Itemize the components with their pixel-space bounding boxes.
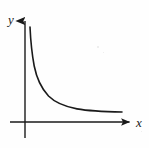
y-axis-label: y [6, 12, 14, 27]
x-axis-label: x [135, 115, 142, 130]
figure-canvas: x y [0, 0, 149, 148]
hyperbola-curve [30, 27, 122, 112]
hyperbola-diagram: x y [0, 0, 149, 148]
